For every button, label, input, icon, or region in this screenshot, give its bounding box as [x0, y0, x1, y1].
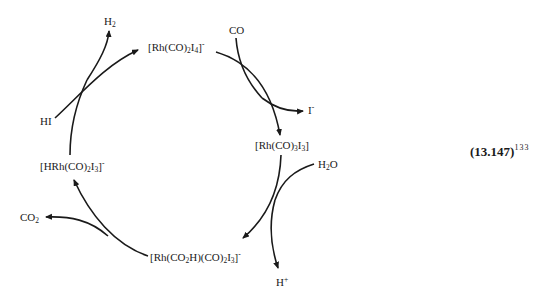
- arrow-main-step4: [70, 80, 87, 155]
- hi-label: HI: [40, 116, 52, 127]
- arrow-hi-in: [55, 50, 138, 118]
- h2-label: H2: [104, 16, 116, 27]
- arrow-co-in: [236, 38, 262, 98]
- co-label: CO: [229, 25, 244, 36]
- co2-label: CO2: [20, 212, 39, 223]
- species-rh-co2h: [Rh(CO2H)(CO)2I3]-: [150, 252, 241, 263]
- arrow-main-step1: [216, 52, 280, 135]
- arrow-h-plus-out: [271, 200, 278, 268]
- arrow-main-step3: [74, 180, 148, 256]
- arrow-h2-out: [87, 31, 109, 80]
- equation-number: (13.147)133: [470, 143, 529, 160]
- species-hrh-co2-i3: [HRh(CO)2I3]-: [40, 161, 104, 172]
- arrow-h2o-in: [275, 164, 314, 200]
- h2o-label: H2O: [318, 159, 338, 170]
- h-plus-label: H+: [276, 277, 288, 288]
- arrow-main-step2: [243, 155, 281, 238]
- species-rh-co3-i3: [Rh(CO)3I3]: [255, 140, 309, 151]
- i-minus-label: I-: [308, 105, 314, 116]
- arrow-i-out: [262, 98, 303, 111]
- species-rh-co2-i4: [Rh(CO)2I4]-: [148, 42, 204, 53]
